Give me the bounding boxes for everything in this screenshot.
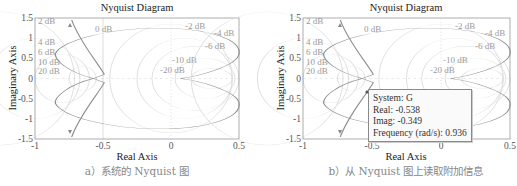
y-tick: -0.5 <box>286 94 301 104</box>
x-axis-label: Real Axis <box>385 151 426 162</box>
db-label: 20 dB <box>306 66 328 76</box>
y-tick: 1.5 <box>289 13 301 23</box>
datatip-imag: Imag: -0.349 <box>373 116 467 128</box>
chart-title: Nyquist Diagram <box>370 2 443 13</box>
x-tick: -0.5 <box>364 141 379 151</box>
db-label: -6 dB <box>475 41 495 51</box>
y-tick: -1.5 <box>286 134 301 144</box>
db-label: 6 dB <box>306 47 323 57</box>
db-label: -2 dB <box>455 21 475 31</box>
y-tick: 0 <box>296 74 301 84</box>
datatip-system: System: G <box>373 93 467 105</box>
y-tick: 1 <box>296 33 301 43</box>
db-label: 0 dB <box>364 24 381 34</box>
data-tip[interactable]: System: G Real: -0.538 Imag: -0.349 Freq… <box>368 89 472 142</box>
y-tick: 0.5 <box>289 53 301 63</box>
db-label: -4 dB <box>485 28 505 38</box>
x-tick: 0.5 <box>504 141 516 151</box>
x-tick: 0 <box>439 141 444 151</box>
db-label: 4 dB <box>306 37 323 47</box>
db-label: -20 dB <box>430 65 455 75</box>
datatip-real: Real: -0.538 <box>373 105 467 117</box>
db-label: -10 dB <box>443 55 468 65</box>
y-axis-label: Imaginary Axis <box>275 45 286 110</box>
y-tick: -1 <box>293 114 301 124</box>
datatip-frequency: Frequency (rad/s): 0.936 <box>373 128 467 140</box>
db-label: 2 dB <box>306 16 323 26</box>
figure-caption-b: b）从 Nyquist 图上读取附加信息 <box>329 163 484 178</box>
